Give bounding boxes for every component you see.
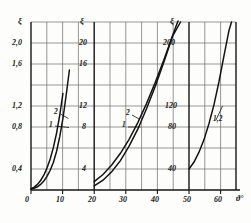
x-axis-unit-label: ϑ° xyxy=(236,195,243,203)
y-tick-left-2.0: 2,0 xyxy=(12,39,22,47)
y-tick-middle-8: 8 xyxy=(82,123,86,131)
curve-label-left-2: 2 xyxy=(54,108,58,116)
curve-label-middle-2: 2 xyxy=(126,109,130,117)
x-tick-50: 50 xyxy=(183,196,191,204)
y-tick-left-0.8: 0,8 xyxy=(12,123,22,131)
y-tick-middle-4: 4 xyxy=(82,165,86,173)
axis-label-middle: ξ xyxy=(80,17,84,26)
y-tick-right-80: 80 xyxy=(168,123,176,131)
y-tick-left-0.4: 0,4 xyxy=(12,165,22,173)
y-tick-left-1.2: 1,2 xyxy=(12,102,22,110)
curve-label-right-12: 1,2 xyxy=(213,115,222,123)
y-tick-middle-20: 20 xyxy=(79,39,87,47)
y-tick-middle-12: 12 xyxy=(79,102,87,110)
x-tick-10: 10 xyxy=(56,196,64,204)
x-tick-30: 30 xyxy=(119,196,127,204)
curve-label-left-1: 1 xyxy=(49,121,53,129)
chart-figure: ξ 2,0 1,6 1,2 0,8 0,4 ξ 20 16 12 8 4 ξ 2… xyxy=(0,0,251,223)
x-tick-60: 60 xyxy=(214,196,222,204)
y-tick-middle-16: 16 xyxy=(79,60,87,68)
y-tick-right-120: 120 xyxy=(165,102,177,110)
y-tick-right-40: 40 xyxy=(168,165,176,173)
x-tick-40: 40 xyxy=(151,196,159,204)
curve-label-middle-1: 1 xyxy=(122,121,126,129)
x-tick-0: 0 xyxy=(25,196,29,204)
x-tick-20: 20 xyxy=(88,196,96,204)
axis-label-left: ξ xyxy=(18,17,22,26)
y-tick-left-1.6: 1,6 xyxy=(12,60,22,68)
axis-label-right: ξ xyxy=(170,17,174,26)
y-tick-right-200: 200 xyxy=(163,39,175,47)
